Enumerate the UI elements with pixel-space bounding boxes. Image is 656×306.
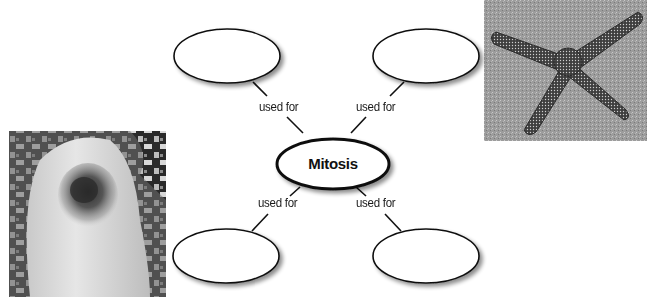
- connector-label-bottom-left: used for: [258, 196, 297, 210]
- node-bottom-right[interactable]: [373, 229, 479, 283]
- connector-label-top-left: used for: [259, 100, 298, 114]
- starfish-photo: [484, 0, 647, 141]
- node-top-right[interactable]: [373, 29, 479, 83]
- connector-label-bottom-right: used for: [356, 196, 395, 210]
- node-bottom-left[interactable]: [173, 229, 279, 283]
- node-top-left[interactable]: [174, 29, 280, 83]
- diagram-canvas: [0, 0, 656, 306]
- center-node-label: Mitosis: [276, 155, 390, 172]
- connector-label-top-right: used for: [356, 100, 395, 114]
- concept-map-diagram: Mitosis used for used for used for used …: [0, 0, 656, 306]
- scraped-knee-photo: [9, 131, 166, 297]
